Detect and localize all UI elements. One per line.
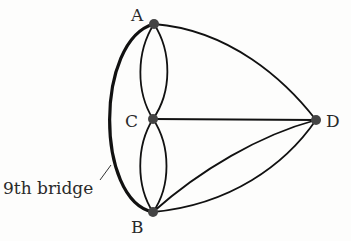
annotation-9th-bridge: 9th bridge — [3, 178, 93, 198]
annotation-leader-line — [100, 165, 111, 180]
edge-a-d — [154, 24, 316, 120]
edge-b-d-lower — [153, 120, 316, 212]
edge-c-b-right — [153, 119, 167, 212]
edge-b-d-upper — [153, 120, 316, 212]
node-c — [148, 114, 158, 124]
edge-a-c-left — [140, 24, 154, 119]
node-label-a: A — [130, 5, 144, 25]
node-b — [148, 207, 158, 217]
edge-c-d — [153, 119, 316, 120]
konigsberg-graph-diagram: A C B D 9th bridge — [0, 0, 351, 241]
edge-a-c-right — [153, 24, 167, 119]
graph-svg: A C B D 9th bridge — [0, 0, 351, 241]
node-label-b: B — [131, 217, 144, 237]
node-label-d: D — [326, 111, 340, 131]
edge-c-b-left — [140, 119, 153, 212]
node-d — [311, 115, 321, 125]
node-label-c: C — [125, 111, 138, 131]
node-a — [149, 19, 159, 29]
